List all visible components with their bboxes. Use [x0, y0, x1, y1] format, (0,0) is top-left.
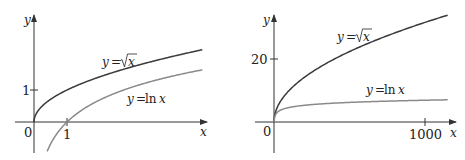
svg-text:x: x [159, 92, 166, 106]
left-origin-label: 0 [24, 125, 32, 140]
right-x-axis-label: x [450, 126, 457, 140]
svg-text:=: = [346, 30, 356, 44]
left-y-tick-label: 1 [22, 83, 30, 98]
svg-text:ln: ln [384, 83, 396, 97]
svg-text:y: y [126, 92, 134, 106]
left-sqrt-annotation: y = x [101, 54, 137, 69]
left-x-tick-label: 1 [63, 127, 71, 142]
right-sqrt-annotation: y = x [336, 29, 372, 44]
svg-text:ln: ln [145, 92, 157, 106]
figure: y x 0 1 1 y = x y = ln x y x 0 [0, 0, 465, 160]
left-x-axis-label: x [200, 125, 207, 139]
svg-text:x: x [398, 83, 405, 97]
svg-text:=: = [111, 55, 121, 69]
left-y-axis-label: y [23, 13, 31, 27]
svg-text:x: x [128, 55, 135, 69]
right-chart: y x 0 20 1000 y = x y = ln x [251, 13, 457, 153]
right-ln-curve [274, 100, 448, 122]
svg-text:y: y [336, 30, 344, 44]
left-chart: y x 0 1 1 y = x y = ln x [15, 13, 207, 153]
svg-text:y: y [101, 55, 109, 69]
right-ln-annotation: y = ln x [365, 83, 405, 97]
svg-text:y: y [365, 83, 373, 97]
right-x-tick-label: 1000 [409, 127, 442, 142]
right-y-axis-label: y [262, 13, 270, 27]
right-origin-label: 0 [263, 124, 271, 139]
left-ln-annotation: y = ln x [126, 92, 166, 106]
right-y-tick-label: 20 [251, 52, 268, 67]
svg-text:x: x [363, 30, 370, 44]
